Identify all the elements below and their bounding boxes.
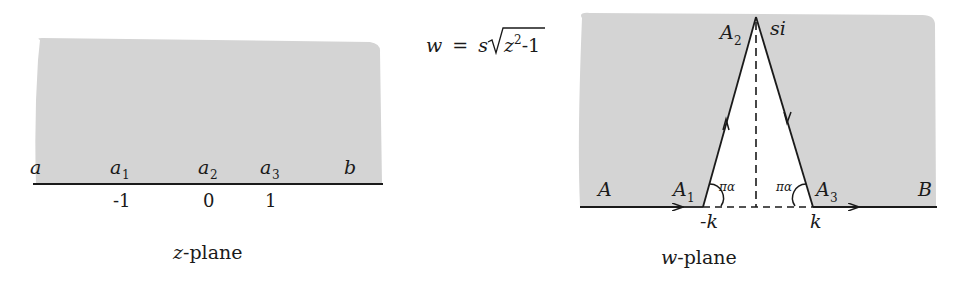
w-plane-caption-rest: -plane	[677, 246, 736, 268]
z-label-a3: a	[260, 156, 271, 178]
w-label-apex-si: si	[770, 17, 786, 39]
z-plane-caption-rest: -plane	[183, 241, 242, 263]
z-plane-caption: z-plane	[172, 241, 242, 263]
z-tick-minus-one: -1	[113, 190, 131, 211]
w-label-A3-sub: 3	[830, 191, 838, 205]
z-tick-zero: 0	[203, 190, 214, 211]
mapping-formula: w = s z2-1	[426, 28, 545, 56]
z-label-a3-sub: 3	[272, 168, 280, 182]
w-label-minus-k: -k	[700, 210, 718, 232]
z-label-a1-sub: 1	[122, 168, 130, 182]
w-label-B: B	[917, 178, 932, 200]
w-label-A2-sub: 2	[734, 34, 742, 48]
w-plane-caption-var: w	[661, 246, 677, 268]
w-label-A: A	[596, 178, 612, 200]
z-label-b: b	[344, 156, 356, 178]
w-label-A3: A	[814, 178, 830, 200]
w-plane-caption: w-plane	[661, 246, 737, 268]
w-angle-arc-right	[792, 184, 806, 206]
w-plane: A A 1 A 2 si A 3 B πα πα -k k w-plane	[579, 13, 937, 268]
z-plane: a a 1 a 2 a 3 b -1 0 1 z-plane	[30, 38, 383, 263]
w-angle-label-right: πα	[775, 180, 792, 194]
w-label-k: k	[810, 210, 822, 232]
w-label-A2: A	[718, 21, 734, 43]
mapping-formula-lhs: w = s	[426, 34, 488, 56]
w-label-A1: A	[671, 178, 687, 200]
z-label-a: a	[30, 156, 41, 178]
z-label-a2: a	[198, 156, 209, 178]
w-angle-label-left: πα	[718, 180, 735, 194]
z-tick-one: 1	[265, 190, 276, 211]
w-label-A1-sub: 1	[687, 191, 695, 205]
mapping-formula-radicand: z2-1	[503, 33, 540, 56]
conformal-map-figure: a a 1 a 2 a 3 b -1 0 1 z-plane w = s z2-…	[0, 0, 967, 286]
z-label-a2-sub: 2	[210, 168, 218, 182]
z-label-a1: a	[110, 156, 121, 178]
w-plane-shaded-region	[579, 13, 936, 206]
